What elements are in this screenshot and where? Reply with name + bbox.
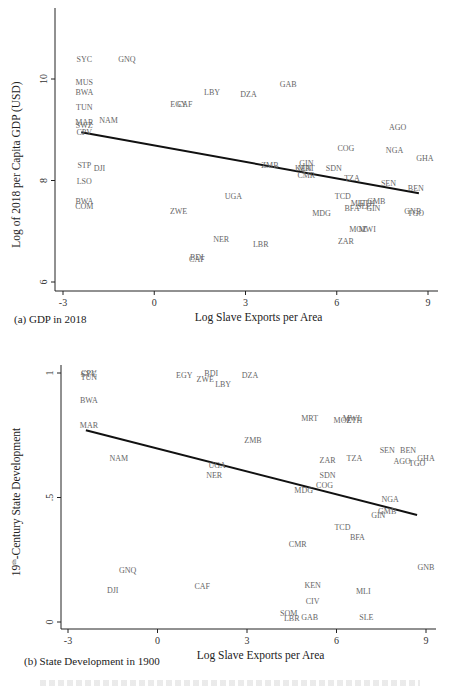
country-label: CAF [194,582,210,591]
country-label: MDG [294,486,313,495]
country-label: MAR [80,421,99,430]
x-tick-label: 3 [243,297,248,308]
country-label: NER [213,235,230,244]
country-label: LSO [77,177,92,186]
country-label: CAF [177,100,193,109]
country-label: ZWE [197,375,214,384]
country-label: TCD [334,523,350,532]
country-label: GIN [371,511,385,520]
y-tick-label: 1 [44,371,55,376]
country-label: NGA [382,495,400,504]
country-label: GAB [301,613,318,622]
y-tick-label: 6 [38,280,49,285]
country-label: EGY [176,371,193,380]
x-tick-label: 0 [152,297,157,308]
country-label: KEN [304,581,321,590]
country-label: LBR [253,240,269,249]
country-label: SEN [380,446,395,455]
country-label: NAM [99,116,118,125]
country-label: MUS [76,78,93,87]
country-label: GHA [416,154,434,163]
x-tick-label: -3 [59,297,67,308]
country-label: LBY [204,88,220,97]
country-label: ZAR [320,456,337,465]
country-label: SYC [77,55,93,64]
x-tick-label: 9 [426,297,431,308]
country-label: TGO [409,459,426,468]
y-tick-label: .5 [44,494,55,502]
country-label: TZA [347,454,363,463]
country-label: UGA [225,192,243,201]
y-tick-label: 0 [44,620,55,625]
country-label: NAM [109,454,128,463]
country-label: BWA [80,396,98,405]
fit-line [81,132,419,193]
country-label: SEN [381,179,396,188]
x-tick-label: 3 [245,635,250,646]
y-axis-title: Log of 2018 per Capita GDP (USD) [10,81,23,247]
country-label: DJI [94,164,106,173]
country-label: NER [206,471,223,480]
caption-panel-a: (a) GDP in 2018 [14,313,87,325]
country-label: CMR [297,171,315,180]
country-label: GAB [280,80,297,89]
x-tick-label: -3 [64,635,72,646]
country-label: SDN [320,471,336,480]
country-label: MWI [359,225,377,234]
country-label: SLE [359,613,373,622]
country-label: TGO [408,209,425,218]
country-label: DJI [107,586,119,595]
country-label: MLI [356,587,371,596]
country-label: LBY [215,380,231,389]
panel-a: -303696810Log Slave Exports per AreaLog … [10,8,438,324]
country-label: GIN [366,204,380,213]
country-label: COM [75,202,93,211]
country-label: GNQ [119,566,137,575]
country-label: TZA [344,174,360,183]
country-label: TUN [76,103,93,112]
country-label: MRT [301,414,318,423]
country-label: ETH [347,416,363,425]
country-label: ZWE [170,207,187,216]
x-axis-title: Log Slave Exports per Area [197,649,325,662]
country-label: BWA [75,88,93,97]
country-label: ZMB [244,436,261,445]
country-label: ZAR [338,237,355,246]
country-label: BFA [344,204,359,213]
x-tick-label: 9 [424,635,429,646]
country-label: TUN [81,373,98,382]
country-label: COG [316,481,333,490]
country-label: STP [77,161,91,170]
cut-off-text-line [40,680,420,686]
country-label: BEN [408,184,424,193]
country-label: ZMB [261,161,278,170]
country-label: LBR [284,614,300,623]
country-label: CIV [306,597,320,606]
y-tick-label: 10 [38,74,49,84]
country-label: DZA [242,371,259,380]
country-label: BEN [400,446,416,455]
country-label: BFA [350,533,365,542]
country-label: CMR [289,540,307,549]
country-label: CPV [77,128,93,137]
y-tick-label: 8 [38,178,49,183]
x-axis-title: Log Slave Exports per Area [195,311,323,324]
scatter-figure: -303696810Log Slave Exports per AreaLog … [0,0,451,686]
country-label: CAF [189,255,205,264]
country-label: NGA [386,146,404,155]
x-tick-label: 6 [334,297,339,308]
country-label: DZA [240,90,257,99]
country-label: UGA [208,461,226,470]
country-label: COG [337,144,354,153]
country-label: AGO [389,123,407,132]
country-label: TCD [335,192,351,201]
x-tick-label: 6 [334,635,339,646]
country-label: GNQ [118,55,136,64]
caption-panel-b: (b) State Development in 1900 [24,655,160,667]
country-label: SDN [326,164,342,173]
y-axis-title: 19th-Century State Development [10,427,23,576]
country-label: GNB [418,563,435,572]
country-label: MDG [312,209,331,218]
x-tick-label: 0 [155,635,160,646]
panel-b: -303690.51Log Slave Exports per Area19th… [10,365,436,662]
